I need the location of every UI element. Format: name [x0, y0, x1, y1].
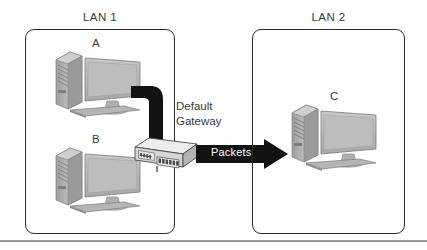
- footer-divider: [0, 240, 427, 242]
- network-switch: [133, 136, 199, 176]
- lan1-label: LAN 1: [25, 11, 175, 23]
- network-diagram: LAN 1 A: [0, 0, 427, 250]
- lan2-label: LAN 2: [252, 11, 405, 23]
- default-gateway-label: Default Gateway: [176, 99, 221, 128]
- default-gateway-label-line1: Default: [176, 99, 221, 114]
- network-cable: [131, 84, 167, 144]
- default-gateway-label-line2: Gateway: [176, 114, 221, 129]
- computer-c: [288, 99, 384, 173]
- desktop-computer-icon: [288, 99, 384, 173]
- network-switch-icon: [133, 158, 199, 175]
